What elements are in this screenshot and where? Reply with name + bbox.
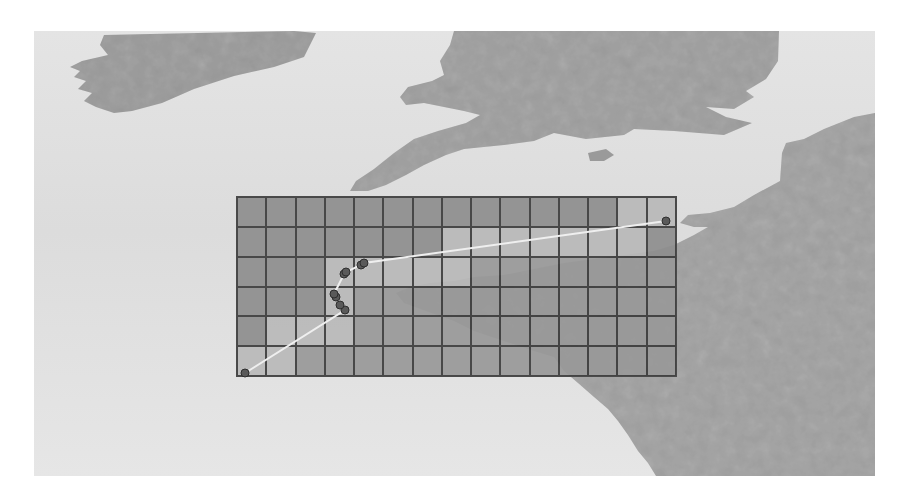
grid-cell-r0-c13[interactable] — [617, 197, 646, 227]
grid-cell-r4-c5[interactable] — [383, 316, 412, 346]
grid-cell-r3-c9[interactable] — [500, 287, 529, 317]
grid-cell-r0-c10[interactable] — [530, 197, 559, 227]
grid-cell-r1-c11[interactable] — [559, 227, 588, 257]
grid-cell-r4-c3[interactable] — [325, 316, 354, 346]
grid-cell-r5-c9[interactable] — [500, 346, 529, 376]
grid-cell-r0-c5[interactable] — [383, 197, 412, 227]
grid-cell-r5-c7[interactable] — [442, 346, 471, 376]
grid-cell-r3-c1[interactable] — [266, 287, 295, 317]
grid-cell-r4-c8[interactable] — [471, 316, 500, 346]
grid-cell-r3-c4[interactable] — [354, 287, 383, 317]
grid-cell-r5-c6[interactable] — [413, 346, 442, 376]
landmass-isle-of-wight — [588, 149, 614, 161]
grid-cell-r2-c2[interactable] — [296, 257, 325, 287]
grid-cell-r2-c5[interactable] — [383, 257, 412, 287]
grid-cell-r5-c12[interactable] — [588, 346, 617, 376]
grid-cell-r4-c7[interactable] — [442, 316, 471, 346]
grid-cell-r2-c3[interactable] — [325, 257, 354, 287]
grid-cell-r0-c3[interactable] — [325, 197, 354, 227]
grid-cell-r0-c7[interactable] — [442, 197, 471, 227]
grid-cell-r5-c14[interactable] — [647, 346, 676, 376]
grid-cell-r1-c10[interactable] — [530, 227, 559, 257]
grid-cell-r0-c12[interactable] — [588, 197, 617, 227]
grid-cell-r4-c0[interactable] — [237, 316, 266, 346]
grid-cell-r3-c6[interactable] — [413, 287, 442, 317]
grid-cell-r1-c2[interactable] — [296, 227, 325, 257]
grid-cell-r3-c11[interactable] — [559, 287, 588, 317]
grid-cell-r5-c1[interactable] — [266, 346, 295, 376]
grid-cell-r3-c7[interactable] — [442, 287, 471, 317]
grid-cell-r2-c11[interactable] — [559, 257, 588, 287]
grid-cell-r1-c12[interactable] — [588, 227, 617, 257]
grid-cell-r4-c4[interactable] — [354, 316, 383, 346]
grid-cell-r5-c11[interactable] — [559, 346, 588, 376]
grid-cell-r4-c2[interactable] — [296, 316, 325, 346]
grid-cell-r3-c5[interactable] — [383, 287, 412, 317]
grid-cell-r5-c3[interactable] — [325, 346, 354, 376]
grid-cell-r0-c2[interactable] — [296, 197, 325, 227]
grid-cell-r0-c8[interactable] — [471, 197, 500, 227]
grid-cell-r1-c9[interactable] — [500, 227, 529, 257]
grid-cell-r1-c7[interactable] — [442, 227, 471, 257]
raster-grid-overlay[interactable] — [236, 196, 677, 377]
grid-cell-r1-c0[interactable] — [237, 227, 266, 257]
grid-cell-r0-c11[interactable] — [559, 197, 588, 227]
grid-cell-r1-c1[interactable] — [266, 227, 295, 257]
grid-cell-r4-c11[interactable] — [559, 316, 588, 346]
grid-cell-r2-c12[interactable] — [588, 257, 617, 287]
grid-cell-r0-c1[interactable] — [266, 197, 295, 227]
grid-cell-r3-c2[interactable] — [296, 287, 325, 317]
grid-cell-r4-c6[interactable] — [413, 316, 442, 346]
grid-cell-r3-c12[interactable] — [588, 287, 617, 317]
grid-cell-r1-c13[interactable] — [617, 227, 646, 257]
grid-cell-r0-c9[interactable] — [500, 197, 529, 227]
map-view[interactable] — [34, 31, 875, 476]
grid-cell-r2-c7[interactable] — [442, 257, 471, 287]
grid-cell-r3-c13[interactable] — [617, 287, 646, 317]
grid-cell-r5-c2[interactable] — [296, 346, 325, 376]
grid-cell-r3-c8[interactable] — [471, 287, 500, 317]
grid-cell-r2-c6[interactable] — [413, 257, 442, 287]
grid-cell-r2-c1[interactable] — [266, 257, 295, 287]
grid-cell-r4-c1[interactable] — [266, 316, 295, 346]
grid-cell-r5-c0[interactable] — [237, 346, 266, 376]
grid-cell-r1-c8[interactable] — [471, 227, 500, 257]
grid-cell-r5-c10[interactable] — [530, 346, 559, 376]
grid-cell-r4-c12[interactable] — [588, 316, 617, 346]
grid-cell-r1-c4[interactable] — [354, 227, 383, 257]
grid-cell-r4-c10[interactable] — [530, 316, 559, 346]
grid-cell-r1-c3[interactable] — [325, 227, 354, 257]
grid-cell-r3-c14[interactable] — [647, 287, 676, 317]
grid-cell-r3-c0[interactable] — [237, 287, 266, 317]
grid-cell-r0-c0[interactable] — [237, 197, 266, 227]
grid-cell-r1-c6[interactable] — [413, 227, 442, 257]
grid-cell-r0-c6[interactable] — [413, 197, 442, 227]
landmass-great-britain — [350, 31, 779, 191]
grid-cell-r1-c5[interactable] — [383, 227, 412, 257]
grid-cell-r0-c14[interactable] — [647, 197, 676, 227]
grid-cell-r2-c0[interactable] — [237, 257, 266, 287]
grid-cell-r3-c3[interactable] — [325, 287, 354, 317]
grid-cell-r2-c4[interactable] — [354, 257, 383, 287]
grid-cell-r1-c14[interactable] — [647, 227, 676, 257]
grid-cell-r0-c4[interactable] — [354, 197, 383, 227]
grid-cell-r5-c4[interactable] — [354, 346, 383, 376]
grid-cell-r3-c10[interactable] — [530, 287, 559, 317]
grid-cell-r2-c14[interactable] — [647, 257, 676, 287]
grid-cell-r4-c13[interactable] — [617, 316, 646, 346]
landmass-ireland — [70, 31, 316, 113]
grid-cell-r4-c9[interactable] — [500, 316, 529, 346]
grid-cell-r2-c13[interactable] — [617, 257, 646, 287]
grid-cell-r2-c10[interactable] — [530, 257, 559, 287]
grid-cell-r5-c5[interactable] — [383, 346, 412, 376]
grid-cell-r5-c8[interactable] — [471, 346, 500, 376]
grid-cell-r4-c14[interactable] — [647, 316, 676, 346]
grid-cell-r2-c9[interactable] — [500, 257, 529, 287]
grid-cell-r2-c8[interactable] — [471, 257, 500, 287]
grid-cell-r5-c13[interactable] — [617, 346, 646, 376]
